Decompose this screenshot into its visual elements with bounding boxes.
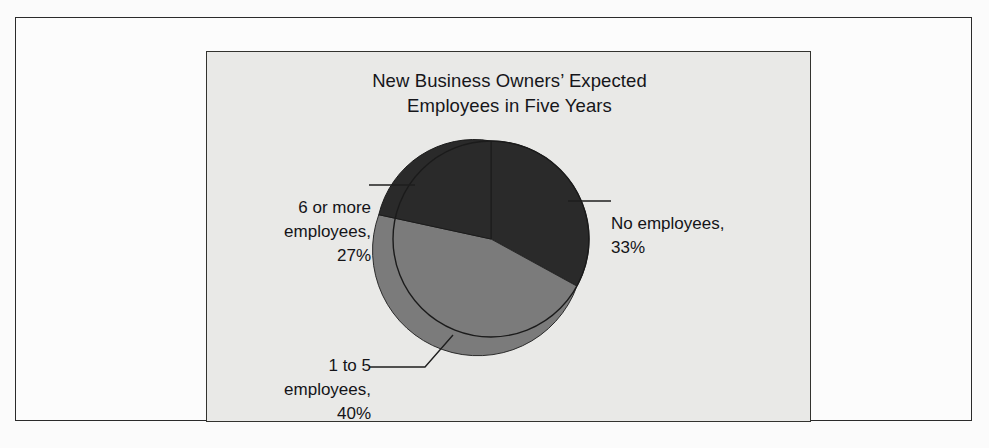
pie-stage: No employees, 33% 6 or more employees, 2…	[207, 52, 812, 423]
pie-label-1-to-5: 1 to 5 employees, 40%	[219, 354, 371, 426]
figure-outer-frame: New Business Owners’ Expected Employees …	[15, 17, 972, 421]
chart-panel: New Business Owners’ Expected Employees …	[206, 51, 811, 422]
pie-label-6-or-more: 6 or more employees, 27%	[219, 196, 371, 268]
figure-root: New Business Owners’ Expected Employees …	[0, 0, 989, 448]
pie-label-no-employees: No employees, 33%	[611, 212, 724, 260]
